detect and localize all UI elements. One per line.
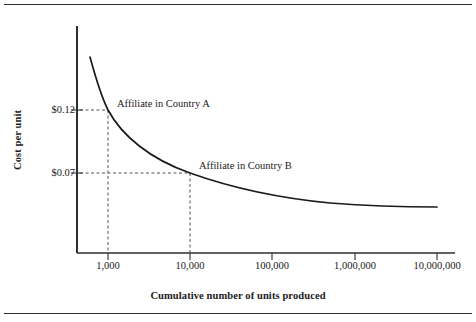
y-axis-title: Cost per unit [12, 110, 23, 170]
experience-curve [90, 57, 437, 207]
x-axis-title: Cumulative number of units produced [0, 290, 476, 301]
annotation-country-a: Affiliate in Country A [117, 99, 210, 110]
x-tick-label-100000: 100,000 [255, 261, 289, 272]
x-tick-label-1000000: 1,000,000 [334, 261, 376, 272]
x-tick-label-1000: 1,000 [96, 261, 120, 272]
y-tick-label-012: $0.12 [51, 105, 75, 116]
y-tick-label-007: $0.07 [51, 168, 75, 179]
figure-container: 1,000 10,000 100,000 1,000,000 10,000,00… [0, 0, 476, 322]
x-tick-label-10000000: 10,000,000 [413, 261, 460, 272]
x-tick-label-10000: 10,000 [176, 261, 205, 272]
annotation-country-b: Affiliate in Country B [199, 161, 292, 172]
